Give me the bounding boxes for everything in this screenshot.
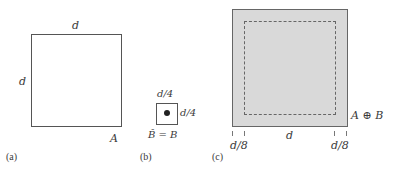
right-margin-dimension: d/8 bbox=[331, 140, 349, 151]
square-a-side-dimension: d bbox=[19, 76, 26, 87]
caption-b: (b) bbox=[140, 152, 152, 162]
tick-mark bbox=[346, 131, 347, 136]
origin-dot-icon bbox=[164, 110, 170, 116]
left-margin-dimension: d/8 bbox=[230, 140, 248, 151]
tick-mark bbox=[244, 131, 245, 136]
caption-a: (a) bbox=[6, 152, 17, 162]
set-b-label: B̂ = B bbox=[148, 130, 177, 140]
square-b-top-dimension: d/4 bbox=[157, 89, 173, 99]
square-a bbox=[31, 34, 122, 127]
square-b-side-dimension: d/4 bbox=[180, 108, 196, 118]
caption-c: (c) bbox=[212, 152, 223, 162]
tick-mark bbox=[334, 131, 335, 136]
dilation-label: A ⊕ B bbox=[351, 110, 383, 121]
square-a-top-dimension: d bbox=[72, 20, 79, 31]
original-set-outline-dashed bbox=[244, 21, 336, 115]
tick-mark bbox=[232, 131, 233, 136]
set-a-label: A bbox=[110, 133, 118, 144]
inner-width-dimension: d bbox=[286, 130, 293, 141]
